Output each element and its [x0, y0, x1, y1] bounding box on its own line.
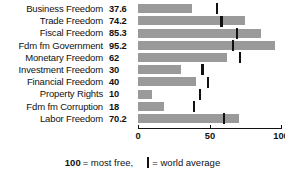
scale-note-value: 100: [65, 157, 81, 168]
x-axis-tickmark: [281, 125, 282, 129]
world-average-marker: [239, 52, 241, 63]
chart-row: Fdm fm Government 95.2: [0, 40, 285, 52]
x-axis-tick-label: 0: [135, 131, 140, 141]
value-bar: [138, 41, 275, 50]
category-label: Fdm fm Corruption: [26, 101, 103, 113]
chart-row: Fiscal Freedom 85.3: [0, 27, 285, 39]
value-label: 40: [109, 76, 119, 88]
chart-rows: Business Freedom 37.6 Trade Freedom 74.2…: [0, 3, 285, 125]
value-label: 10: [109, 88, 119, 100]
value-bar: [138, 90, 152, 99]
category-label: Labor Freedom: [40, 113, 103, 125]
plot-area: [138, 76, 282, 88]
plot-area: [138, 101, 282, 113]
x-axis-tickmark: [138, 125, 139, 129]
value-label: 37.6: [109, 3, 127, 15]
value-label: 62: [109, 52, 119, 64]
value-bar: [138, 53, 227, 62]
world-average-marker: [216, 3, 218, 14]
value-label: 85.3: [109, 27, 127, 39]
plot-area: [138, 52, 282, 64]
value-bar: [138, 65, 181, 74]
category-label: Monetary Freedom: [25, 52, 103, 64]
plot-area: [138, 27, 282, 39]
chart-row: Financial Freedom 40: [0, 76, 285, 88]
chart-footnote: 100 = most free, = world average: [0, 152, 285, 172]
world-average-marker: [220, 16, 222, 27]
chart-row: Business Freedom 37.6: [0, 3, 285, 15]
value-bar: [138, 29, 261, 38]
world-average-marker: [232, 40, 234, 51]
world-average-marker: [207, 77, 209, 88]
category-label: Investment Freedom: [19, 64, 103, 76]
category-label: Fdm fm Government: [18, 40, 103, 52]
x-axis-tick-label: 50: [205, 131, 215, 141]
world-average-marker: [201, 64, 203, 75]
plot-area: [138, 113, 282, 125]
category-label: Business Freedom: [26, 3, 103, 15]
x-axis-tickmark: [210, 125, 211, 129]
value-bar: [138, 77, 196, 86]
chart-row: Fdm fm Corruption 18: [0, 101, 285, 113]
chart-row: Monetary Freedom 62: [0, 52, 285, 64]
category-label: Financial Freedom: [27, 76, 103, 88]
x-axis: 0 50 100: [138, 128, 282, 150]
value-bar: [138, 16, 245, 25]
value-label: 74.2: [109, 15, 127, 27]
plot-area: [138, 3, 282, 15]
freedom-index-bar-chart: Business Freedom 37.6 Trade Freedom 74.2…: [0, 0, 285, 174]
plot-area: [138, 88, 282, 100]
value-bar: [138, 102, 164, 111]
chart-row: Trade Freedom 74.2: [0, 15, 285, 27]
value-bar: [138, 4, 192, 13]
chart-row: Investment Freedom 30: [0, 64, 285, 76]
value-label: 30: [109, 64, 119, 76]
scale-note-text: = most free,: [83, 157, 133, 168]
plot-area: [138, 40, 282, 52]
world-average-marker: [236, 28, 238, 39]
world-average-legend-text: = world average: [152, 157, 220, 168]
chart-row: Labor Freedom 70.2: [0, 113, 285, 125]
x-axis-tick-label: 100: [273, 131, 285, 141]
value-label: 95.2: [109, 40, 127, 52]
chart-row: Property Rights 10: [0, 88, 285, 100]
world-average-marker: [223, 113, 225, 124]
plot-area: [138, 15, 282, 27]
category-label: Property Rights: [40, 88, 103, 100]
category-label: Fiscal Freedom: [40, 27, 103, 39]
world-average-legend-marker-icon: [147, 157, 149, 168]
value-label: 18: [109, 101, 119, 113]
plot-area: [138, 64, 282, 76]
category-label: Trade Freedom: [40, 15, 103, 27]
world-average-marker: [193, 101, 195, 112]
world-average-marker: [199, 89, 201, 100]
value-label: 70.2: [109, 113, 127, 125]
